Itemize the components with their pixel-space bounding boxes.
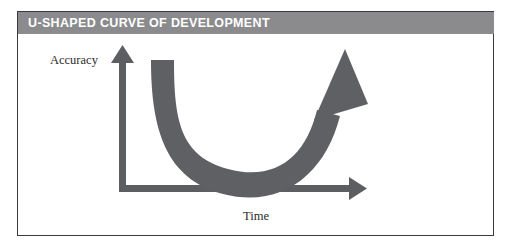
figure-root: U-SHAPED CURVE OF DEVELOPMENT Accuracy T… xyxy=(0,0,511,248)
y-axis-arrowhead-icon xyxy=(111,45,134,63)
x-axis-label: Time xyxy=(243,209,269,223)
y-axis-label: Accuracy xyxy=(50,53,99,67)
u-shaped-arrow xyxy=(151,49,368,198)
u-curve-arrowhead-icon xyxy=(314,49,368,120)
y-axis xyxy=(111,45,134,192)
figure-title: U-SHAPED CURVE OF DEVELOPMENT xyxy=(18,16,270,30)
diagram-plot-area: Accuracy Time xyxy=(18,34,493,235)
x-axis-arrowhead-icon xyxy=(349,177,367,200)
u-curve-band xyxy=(151,60,340,198)
y-axis-shaft xyxy=(119,58,126,192)
figure-title-bar: U-SHAPED CURVE OF DEVELOPMENT xyxy=(18,12,494,34)
u-shaped-curve-diagram: Accuracy Time xyxy=(18,34,493,235)
